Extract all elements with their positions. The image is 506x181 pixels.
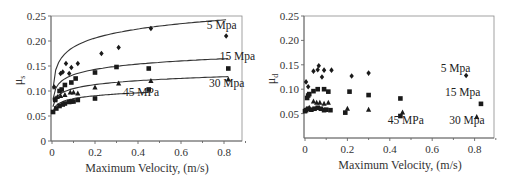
data-point-15-mpa (322, 87, 327, 92)
data-point-5-mpa (306, 84, 310, 90)
y-tick-label: 0.10 (280, 83, 300, 95)
data-point-30-mpa (366, 107, 371, 112)
y-axis-label: μd (264, 74, 280, 84)
data-point-45-mpa (328, 108, 333, 113)
data-point-15-mpa (307, 92, 312, 97)
y-tick-label: 0.20 (280, 34, 300, 46)
data-point-5-mpa (311, 68, 315, 74)
data-point-5-mpa (304, 79, 308, 85)
data-point-15-mpa (347, 89, 352, 94)
data-point-30-mpa (326, 100, 331, 105)
series-annotation: 30 Mpa (449, 114, 484, 127)
data-point-15-mpa (326, 89, 331, 94)
x-axis-label: Maximum Velocity, (m/s) (338, 158, 461, 172)
data-point-15-mpa (311, 89, 316, 94)
data-point-30-mpa (321, 101, 326, 106)
y-tick-label: 0.25 (280, 10, 300, 22)
data-point-15-mpa (315, 87, 320, 92)
data-point-5-mpa (349, 73, 353, 79)
x-tick-label: 0.8 (468, 143, 482, 155)
data-point-15-mpa (366, 93, 371, 98)
data-point-5-mpa (329, 67, 333, 73)
figure: 00.050.100.150.200.2500.20.40.60.8Maximu… (0, 0, 506, 181)
y-tick-label: 0.15 (280, 59, 300, 71)
data-point-5-mpa (320, 74, 324, 80)
data-point-30-mpa (317, 100, 322, 105)
x-tick-label: 0.2 (341, 143, 355, 155)
data-point-45-mpa (343, 110, 348, 115)
data-point-45-mpa (324, 107, 329, 112)
data-point-5-mpa (322, 67, 326, 73)
data-point-15-mpa (479, 102, 484, 107)
x-tick-label: 0.6 (425, 143, 439, 155)
x-tick-label: 0 (302, 143, 308, 155)
series-annotation: 45 MPa (388, 114, 424, 126)
data-point-30-mpa (345, 106, 350, 111)
y-tick-label: 0.05 (280, 108, 300, 120)
series-annotation: 5 Mpa (441, 62, 471, 75)
data-point-5-mpa (366, 70, 370, 76)
data-point-15-mpa (398, 96, 403, 101)
series-annotation: 15 Mpa (445, 86, 480, 99)
x-tick-label: 0.4 (383, 143, 397, 155)
chart-dynamic-friction: 0.050.100.150.200.2500.20.40.60.8Maximum… (0, 0, 506, 181)
